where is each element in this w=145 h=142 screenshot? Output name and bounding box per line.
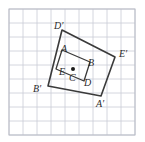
grid-group xyxy=(0,0,145,142)
label-C: C xyxy=(69,72,76,83)
label-A: A xyxy=(60,43,68,54)
center-point-dot xyxy=(71,67,75,71)
label-E-prime: E′ xyxy=(118,48,128,59)
label-B: B xyxy=(88,57,94,68)
label-E: E xyxy=(58,66,65,77)
label-D: D xyxy=(83,77,92,88)
label-B-prime: B′ xyxy=(33,83,42,94)
label-A-prime: A′ xyxy=(95,98,105,109)
diagram-canvas: D′AE′BECB′DA′ xyxy=(0,0,145,142)
geometry-figure: D′AE′BECB′DA′ xyxy=(0,0,145,142)
label-D-prime: D′ xyxy=(53,20,64,31)
